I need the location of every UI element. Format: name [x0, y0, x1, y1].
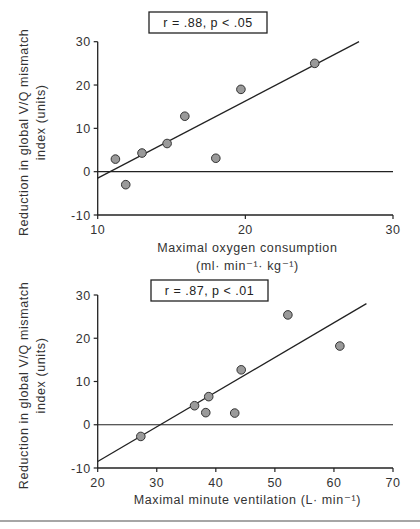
data-point	[284, 311, 293, 320]
data-point	[111, 155, 120, 164]
y-tick-label: 30	[76, 289, 91, 303]
y-tick-label: 10	[76, 375, 91, 389]
data-point	[138, 149, 147, 158]
x-tick-label: 10	[90, 223, 105, 237]
y-tick-label: 0	[83, 418, 90, 432]
stats-annotation: r = .88, p < .05	[163, 16, 252, 30]
data-point	[137, 432, 146, 441]
data-point	[230, 409, 239, 418]
data-point	[204, 392, 213, 401]
x-axis-title: Maximal minute ventilation (L· min⁻¹)	[134, 493, 361, 507]
x-tick-label: 60	[326, 476, 341, 490]
x-tick-label: 20	[90, 476, 105, 490]
y-axis-title: Reduction in global V/Q mismatch	[17, 29, 31, 236]
data-point	[237, 85, 246, 94]
x-axis-units: (ml· min⁻¹· kg⁻¹)	[196, 259, 299, 273]
y-tick-label: 10	[76, 122, 91, 136]
y-axis-title: Reduction in global V/Q mismatch	[17, 282, 31, 489]
y-tick-label: 0	[83, 165, 90, 179]
stats-annotation: r = .87, p < .01	[165, 284, 254, 298]
data-point	[336, 342, 345, 351]
y-tick-label: 20	[76, 79, 91, 93]
data-point	[121, 180, 130, 189]
y-tick-label: -10	[71, 209, 91, 223]
chart-oxygen-consumption: 3020100-10102030r = .88, p < .05Maximal …	[17, 12, 400, 273]
x-axis-title: Maximal oxygen consumption	[157, 241, 337, 255]
data-point	[163, 139, 172, 148]
y-tick-label: 30	[76, 35, 91, 49]
data-point	[181, 112, 190, 121]
data-point	[212, 154, 221, 163]
data-point	[310, 59, 319, 68]
y-axis-title-line2: index (units)	[34, 338, 48, 414]
x-tick-label: 30	[386, 223, 401, 237]
y-axis-title-line2: index (units)	[34, 84, 48, 160]
regression-line	[98, 42, 359, 178]
data-point	[237, 366, 246, 375]
data-point	[190, 401, 199, 410]
y-tick-label: -10	[71, 462, 91, 476]
x-tick-label: 40	[208, 476, 223, 490]
figure: 3020100-10102030r = .88, p < .05Maximal …	[0, 0, 420, 529]
x-tick-label: 30	[149, 476, 164, 490]
x-tick-label: 50	[267, 476, 282, 490]
x-tick-label: 70	[386, 476, 401, 490]
x-tick-label: 20	[238, 223, 253, 237]
chart-minute-ventilation: 3020100-10203040506070r = .87, p < .01Ma…	[17, 280, 400, 507]
data-point	[201, 408, 210, 417]
y-tick-label: 20	[76, 332, 91, 346]
